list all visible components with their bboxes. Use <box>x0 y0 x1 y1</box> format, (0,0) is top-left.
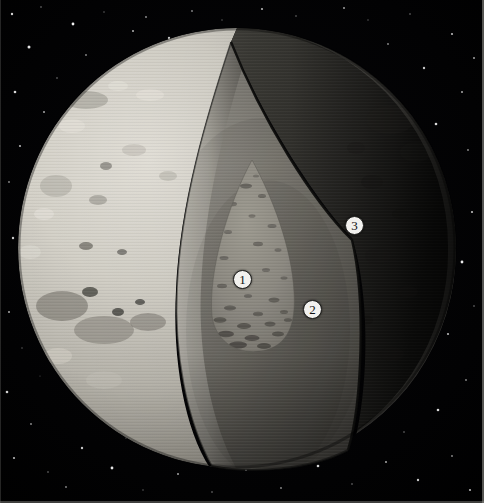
star <box>8 311 10 313</box>
star <box>343 7 345 9</box>
star <box>47 471 49 473</box>
star <box>261 8 263 10</box>
star <box>280 487 282 489</box>
star <box>385 461 387 463</box>
star <box>6 391 9 394</box>
star <box>367 19 368 20</box>
star <box>387 43 389 45</box>
star <box>473 305 475 307</box>
star <box>461 261 464 264</box>
star <box>81 447 83 449</box>
star <box>19 145 21 147</box>
star <box>295 15 297 17</box>
star <box>21 347 22 348</box>
callout-marker-3[interactable]: 3 <box>345 216 364 235</box>
star <box>351 483 353 485</box>
star <box>461 91 463 93</box>
star <box>72 23 75 26</box>
star <box>14 91 17 94</box>
star <box>103 11 104 12</box>
star <box>12 237 14 239</box>
star <box>85 54 87 56</box>
star <box>132 30 134 32</box>
star <box>8 181 10 183</box>
callout-marker-1[interactable]: 1 <box>233 270 252 289</box>
frame-edge-left <box>0 0 1 503</box>
star <box>473 57 475 59</box>
star <box>39 375 40 376</box>
star <box>417 479 419 481</box>
star <box>437 409 440 412</box>
star <box>65 486 67 488</box>
star <box>145 16 147 18</box>
star <box>221 19 222 20</box>
star <box>469 489 471 491</box>
star <box>403 431 405 433</box>
star <box>191 10 193 12</box>
star <box>409 13 411 15</box>
star <box>142 489 143 490</box>
star <box>467 149 469 151</box>
star <box>317 465 320 468</box>
star <box>111 467 114 470</box>
cutaway-diagram-figure: 1 2 3 <box>0 0 484 503</box>
callout-marker-2[interactable]: 2 <box>303 300 322 319</box>
star <box>447 333 449 335</box>
star <box>28 46 31 49</box>
star <box>40 6 42 8</box>
star <box>11 13 13 15</box>
star <box>13 457 15 459</box>
star <box>43 111 45 113</box>
scene-canvas <box>0 0 484 503</box>
star <box>177 473 179 475</box>
star <box>451 33 453 35</box>
star <box>30 423 32 425</box>
star <box>471 211 473 213</box>
star <box>423 67 425 69</box>
star <box>465 379 467 381</box>
star <box>211 491 213 493</box>
star <box>56 77 58 79</box>
star <box>451 455 453 457</box>
star <box>435 123 438 126</box>
